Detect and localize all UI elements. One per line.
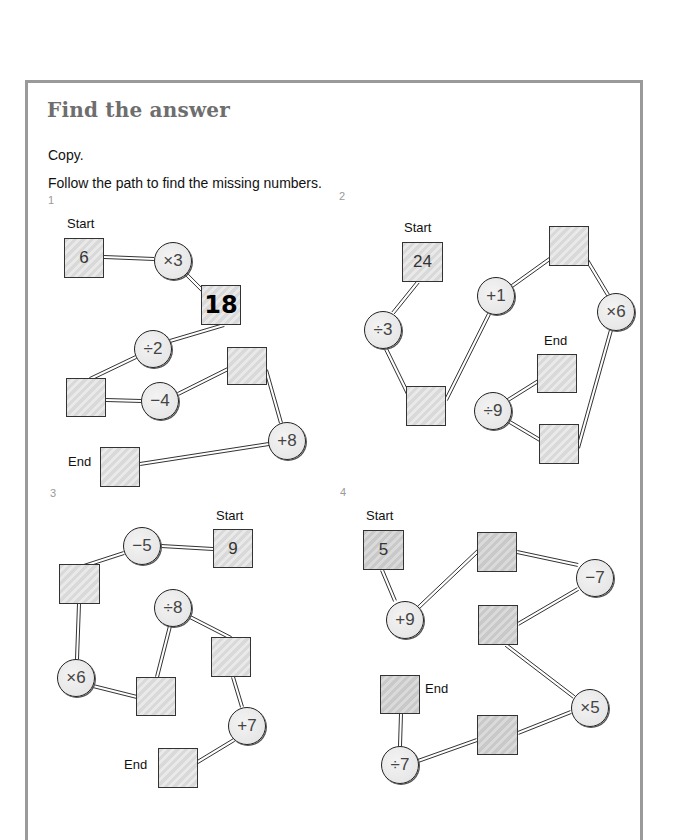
end-label: End [68,454,91,469]
path-connector [511,257,552,287]
end-label: End [544,333,567,348]
path-connector [195,739,235,765]
answer-box[interactable] [59,564,100,604]
answer-box[interactable] [477,532,517,572]
answer-box[interactable] [158,748,198,788]
operation-circle: ÷7 [381,746,419,784]
answer-box[interactable] [380,675,420,714]
number-box: 24 [402,242,443,282]
operation-circle: −4 [141,382,179,420]
answer-box[interactable] [66,378,106,417]
operation-circle: −5 [123,527,161,565]
path-connector [106,399,141,403]
puzzle-number: 2 [339,190,345,202]
path-connector [507,379,541,402]
path-connector [505,644,575,698]
answer-box[interactable] [537,354,577,393]
answer-box[interactable] [211,637,251,677]
path-connector [93,685,138,699]
puzzle-number: 3 [50,487,56,499]
start-label: Start [216,508,243,523]
path-connector [232,677,244,708]
operation-circle: ×6 [57,659,95,697]
path-connector [89,356,136,381]
path-connector [399,714,403,746]
path-connector [381,569,397,601]
path-connector [392,281,419,314]
answer-box[interactable] [100,447,140,487]
operation-circle: +8 [268,422,306,460]
path-connector [170,324,225,343]
operation-circle: ×3 [154,242,192,280]
operation-circle: ×6 [597,293,635,331]
answer-box[interactable] [478,605,518,645]
path-connector [161,545,213,551]
end-label: End [425,681,448,696]
path-connector [517,711,571,735]
puzzle-number: 1 [48,194,54,206]
puzzle-number: 4 [340,486,346,498]
operation-circle: ÷3 [364,311,402,349]
path-connector [445,313,491,400]
path-connector [417,739,477,763]
path-connector [189,616,231,640]
operation-circle: +9 [386,601,424,639]
start-label: Start [404,220,431,235]
operation-circle: ×5 [571,689,609,727]
path-connector [418,550,479,608]
number-box: 5 [363,530,404,570]
answer-box[interactable] [227,347,267,385]
path-connector [586,259,610,296]
number-box: 18 [201,285,241,325]
path-connector [156,626,172,678]
end-label: End [124,757,147,772]
answer-box[interactable] [549,226,589,266]
path-connector [517,588,579,626]
operation-circle: +1 [477,277,515,315]
path-connector [104,256,154,261]
path-connector [577,330,613,449]
path-connector [177,368,228,396]
number-box: 9 [213,529,253,568]
path-connector [265,370,283,424]
operation-circle: −7 [576,559,614,597]
operation-circle: +7 [228,707,266,745]
number-box: 6 [64,238,104,278]
start-label: Start [366,508,393,523]
answer-box[interactable] [406,386,446,426]
answer-box[interactable] [136,677,176,716]
answer-box[interactable] [477,715,518,755]
answer-box[interactable] [539,424,579,464]
path-connector [507,420,541,442]
operation-circle: ÷8 [154,589,192,627]
path-connector [517,551,579,567]
path-connector [140,443,269,466]
operation-circle: ÷9 [474,392,512,430]
start-label: Start [67,216,94,231]
operation-circle: ÷2 [134,330,172,368]
path-connector [76,604,81,659]
